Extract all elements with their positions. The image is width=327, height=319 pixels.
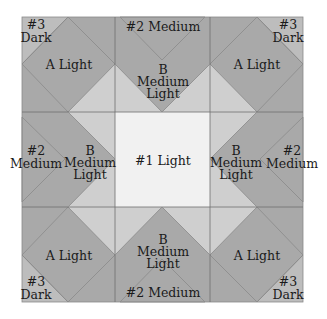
label-b-bottom-3: Light [146, 256, 179, 271]
label-dark-tr-2: Dark [272, 30, 303, 45]
label-a-light-tr: A Light [233, 57, 280, 72]
label-medium-right-2: Medium [266, 156, 318, 171]
label-dark-bl-2: Dark [20, 287, 51, 302]
quilt-block-diagram: #3 Dark #3 Dark #3 Dark #3 Dark A Light … [0, 0, 327, 319]
label-b-right-3: Light [219, 167, 252, 182]
label-medium-bottom: #2 Medium [126, 285, 201, 300]
label-a-light-br: A Light [233, 248, 280, 263]
label-b-top-3: Light [146, 86, 179, 101]
label-dark-br-2: Dark [272, 287, 303, 302]
label-a-light-tl: A Light [45, 57, 92, 72]
label-dark-tl-2: Dark [20, 30, 51, 45]
label-center-light: #1 Light [135, 153, 191, 168]
label-medium-left-2: Medium [10, 156, 62, 171]
label-b-left-3: Light [73, 167, 106, 182]
label-medium-top: #2 Medium [126, 19, 201, 34]
label-a-light-bl: A Light [45, 248, 92, 263]
